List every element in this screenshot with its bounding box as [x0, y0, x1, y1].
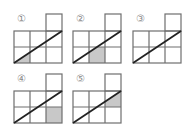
extra-cell-1	[46, 14, 62, 31]
shaded-region-4	[46, 107, 62, 123]
extra-cell-4	[46, 74, 62, 91]
extra-cell-5	[105, 74, 121, 91]
grid-drawings	[0, 0, 186, 128]
shaded-region-2	[89, 47, 105, 63]
extra-cell-2	[105, 14, 121, 31]
extra-cell-3	[165, 14, 181, 31]
